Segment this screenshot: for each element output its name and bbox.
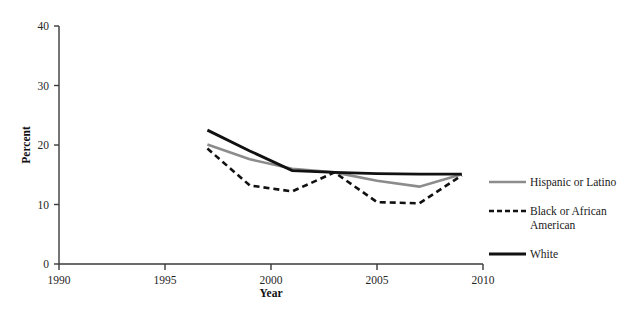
x-tick-label: 2010	[472, 274, 495, 286]
y-tick-label: 0	[43, 258, 49, 270]
line-chart: 010203040 19901995200020052010 Percent Y…	[0, 0, 635, 317]
chart-canvas: 010203040 19901995200020052010 Percent Y…	[0, 0, 635, 317]
x-tick-label: 1995	[154, 274, 177, 286]
y-tick-label: 10	[38, 199, 50, 211]
legend-label[interactable]: White	[530, 248, 558, 260]
x-tick-label: 1990	[48, 274, 71, 286]
series-line	[207, 144, 461, 186]
y-tick-label: 40	[38, 20, 50, 32]
y-tick-label: 20	[38, 139, 50, 151]
legend-label[interactable]: Black or African	[530, 205, 607, 217]
x-tick-label: 2005	[366, 274, 389, 286]
x-axis-ticks: 19901995200020052010	[48, 264, 495, 286]
legend-label[interactable]: Hispanic or Latino	[530, 176, 616, 189]
y-axis-title: Percent	[20, 126, 32, 164]
chart-legend: Hispanic or LatinoBlack or AfricanAmeric…	[489, 176, 616, 260]
legend-label-line2[interactable]: American	[530, 219, 576, 231]
x-axis-title: Year	[260, 287, 283, 299]
y-tick-label: 30	[38, 80, 50, 92]
data-series-group	[207, 130, 461, 203]
series-line	[207, 130, 461, 174]
y-axis-ticks: 010203040	[38, 20, 60, 270]
x-tick-label: 2000	[260, 274, 283, 286]
